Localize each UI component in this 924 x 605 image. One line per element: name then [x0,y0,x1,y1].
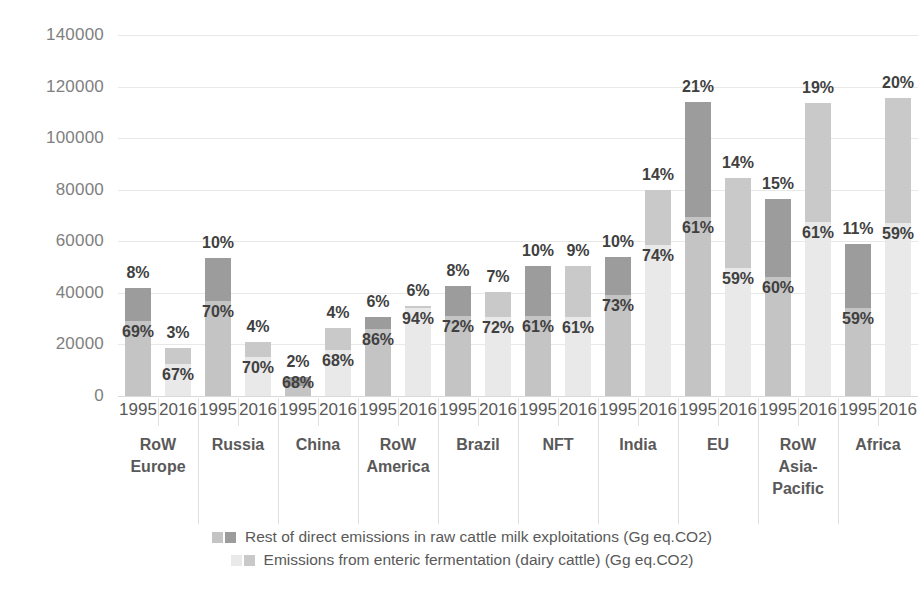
x-axis-region-label-line: Africa [838,434,918,456]
x-axis-year-label: 1995 [198,398,238,422]
axis-separator [758,424,759,524]
x-axis-region-label-line: Europe [118,456,198,478]
bar-inner-percent-label: 61% [682,219,714,237]
bar-top-percent-label: 11% [842,220,873,238]
bar-column[interactable] [805,103,831,396]
x-axis-region-label-line: EU [678,434,758,456]
axis-separator [158,398,159,426]
bar-top-percent-label: 10% [602,233,634,251]
x-axis-year-label: 1995 [278,398,318,422]
bar-segment-rest[interactable] [405,306,431,309]
bar-top-percent-label: 10% [202,234,234,252]
bar-segment-rest[interactable] [885,98,911,223]
bar-segment-rest[interactable] [125,288,151,322]
bar-inner-percent-label: 60% [762,279,794,297]
bar-segment-rest[interactable] [445,286,471,316]
x-axis-region-label: NFT [518,424,598,456]
axis-separator [678,424,679,524]
y-axis-tick-label: 40000 [56,283,104,303]
bar-segment-enteric[interactable] [645,245,671,396]
bar-segment-rest[interactable] [645,190,671,245]
x-axis-region-label: India [598,424,678,456]
bar-segment-rest[interactable] [725,178,751,268]
bars-layer: 8%69%3%67%10%70%4%70%2%68%4%68%6%86%6%94… [118,35,918,396]
bar-segment-rest[interactable] [605,257,631,296]
x-axis-region-label-line: China [278,434,358,456]
bar-segment-rest[interactable] [165,348,191,363]
axis-separator [438,424,439,524]
bar-inner-percent-label: 68% [282,374,314,392]
bar-inner-percent-label: 72% [482,319,514,337]
x-axis-region-label: RoWAmerica [358,424,438,478]
legend-item[interactable]: Rest of direct emissions in raw cattle m… [212,528,712,546]
axis-separator [358,424,359,524]
bar-segment-enteric[interactable] [885,223,911,396]
bar-column[interactable] [365,317,391,396]
bar-segment-rest[interactable] [685,102,711,217]
bar-segment-rest[interactable] [245,342,271,357]
bar-column[interactable] [205,258,231,396]
bar-top-percent-label: 10% [522,242,554,260]
bar-top-percent-label: 21% [682,78,714,96]
legend-color-swatch [244,555,255,566]
bar-inner-percent-label: 68% [322,352,354,370]
bar-column[interactable] [445,286,471,396]
bar-segment-enteric[interactable] [805,222,831,396]
bar-top-percent-label: 6% [366,293,389,311]
x-axis-region-label-line: NFT [518,434,598,456]
bar-inner-percent-label: 61% [562,319,594,337]
legend-color-swatch [212,532,223,543]
x-axis-year-label: 1995 [758,398,798,422]
legend-color-swatch [231,555,242,566]
bar-segment-rest[interactable] [325,328,351,350]
legend-color-swatch [225,532,236,543]
bar-top-percent-label: 3% [166,324,189,342]
bar-column[interactable] [605,257,631,396]
y-axis-tick-label: 20000 [56,334,104,354]
x-axis-year-label: 2016 [878,398,918,422]
bar-inner-percent-label: 67% [162,366,194,384]
y-axis-tick-label: 140000 [46,25,104,45]
bar-inner-percent-label: 69% [122,323,154,341]
x-axis-region-label-line: America [358,456,438,478]
x-axis-region-label-line: Russia [198,434,278,456]
chart-root: 020000400006000080000100000120000140000 … [0,0,924,605]
bar-segment-rest[interactable] [485,292,511,318]
bar-inner-percent-label: 61% [522,318,554,336]
axis-separator [478,398,479,426]
x-axis-region-label-line: India [598,434,678,456]
bar-segment-rest[interactable] [845,244,871,308]
bar-top-percent-label: 7% [486,268,509,286]
bar-column[interactable] [685,102,711,396]
bar-column[interactable] [485,292,511,396]
category-axis: 1995201619952016199520161995201619952016… [118,396,918,526]
bar-column[interactable] [125,288,151,396]
bar-inner-percent-label: 72% [442,318,474,336]
bar-segment-rest[interactable] [205,258,231,301]
bar-column[interactable] [885,98,911,396]
x-axis-year-label: 2016 [558,398,598,422]
x-axis-region-label: China [278,424,358,456]
bar-inner-percent-label: 59% [882,225,914,243]
chart-legend: Rest of direct emissions in raw cattle m… [0,528,924,569]
bar-top-percent-label: 4% [246,318,269,336]
bar-inner-percent-label: 73% [602,297,634,315]
bar-top-percent-label: 8% [446,262,469,280]
bar-inner-percent-label: 59% [842,310,874,328]
y-axis: 020000400006000080000100000120000140000 [0,35,112,396]
bar-column[interactable] [645,190,671,396]
axis-separator [438,398,439,426]
bar-segment-rest[interactable] [565,266,591,318]
bar-segment-rest[interactable] [765,199,791,278]
axis-separator [278,424,279,524]
bar-segment-rest[interactable] [365,317,391,329]
bar-segment-rest[interactable] [525,266,551,316]
legend-item[interactable]: Emissions from enteric fermentation (dai… [231,551,694,569]
x-axis-year-label: 2016 [718,398,758,422]
bar-column[interactable] [765,199,791,396]
axis-separator [798,398,799,426]
axis-separator [318,398,319,426]
bar-segment-enteric[interactable] [685,217,711,396]
axis-separator [718,398,719,426]
bar-segment-rest[interactable] [805,103,831,222]
